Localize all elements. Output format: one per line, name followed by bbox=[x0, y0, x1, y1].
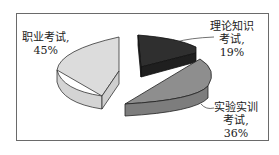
label-shiyan: 实验实训 考试, 36% bbox=[214, 101, 258, 140]
label-shiyan-line2: 考试, bbox=[214, 114, 258, 127]
label-lilun-line3: 19% bbox=[210, 46, 254, 59]
label-lilun-line2: 考试, bbox=[210, 33, 254, 46]
label-shiyan-line1: 实验实训 bbox=[214, 101, 258, 114]
label-lilun: 理论知识 考试, 19% bbox=[210, 20, 254, 59]
leader-line-shiyan bbox=[201, 104, 214, 109]
label-zhiye-line2: 45% bbox=[22, 44, 70, 57]
label-zhiye: 职业考试, 45% bbox=[22, 31, 70, 57]
label-shiyan-line3: 36% bbox=[214, 127, 258, 140]
label-lilun-line1: 理论知识 bbox=[210, 20, 254, 33]
label-zhiye-line1: 职业考试, bbox=[22, 31, 70, 44]
leader-line-lilun bbox=[176, 37, 214, 42]
